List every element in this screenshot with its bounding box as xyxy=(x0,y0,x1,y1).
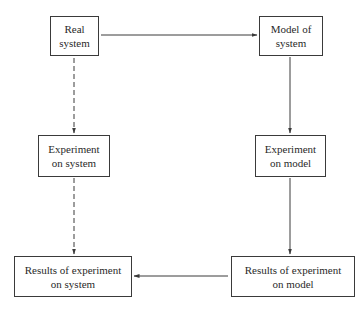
node-model-of-system: Model of system xyxy=(259,16,323,56)
node-experiment-on-model: Experiment on model xyxy=(255,135,326,177)
node-results-on-system: Results of experiment on system xyxy=(14,256,132,297)
node-label-line2: on system xyxy=(51,277,95,291)
node-label-line2: system xyxy=(59,36,90,50)
node-label-line2: on model xyxy=(270,156,311,170)
node-results-on-model: Results of experiment on model xyxy=(231,256,355,297)
node-label-line2: system xyxy=(276,36,307,50)
node-label-line1: Results of experiment xyxy=(25,263,122,277)
node-real-system: Real system xyxy=(50,16,99,56)
node-label-line1: Experiment xyxy=(48,142,99,156)
node-label-line1: Results of experiment xyxy=(245,263,342,277)
node-label-line1: Real xyxy=(64,22,84,36)
node-label-line1: Experiment xyxy=(265,142,316,156)
node-label-line1: Model of xyxy=(271,22,312,36)
node-label-line2: on system xyxy=(52,156,96,170)
node-label-line2: on model xyxy=(272,277,313,291)
node-experiment-on-system: Experiment on system xyxy=(38,135,110,177)
